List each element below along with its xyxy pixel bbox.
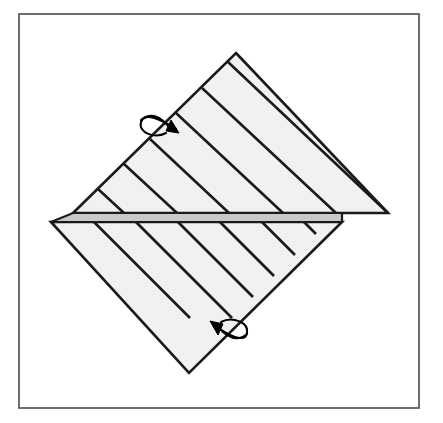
fold-band [51, 213, 342, 222]
figure-container [0, 0, 443, 423]
figure-canvas [0, 0, 443, 423]
